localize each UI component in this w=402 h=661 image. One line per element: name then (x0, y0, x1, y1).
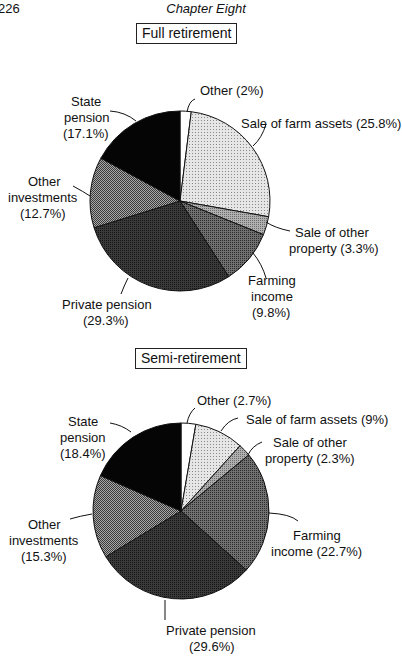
label-full-other-investments-2: investments (8, 190, 78, 205)
label-semi-other: Other (2.7%) (197, 393, 271, 408)
label-full-other: Other (2%) (200, 83, 264, 98)
label-semi-other-property-2: property (2.3%) (265, 451, 355, 466)
label-full-farming-income-2: income (251, 289, 293, 304)
label-full-state-pension-1: State (71, 94, 101, 109)
label-semi-private-pension-1: Private pension (166, 623, 256, 638)
label-full-private-pension-2: (29.3%) (83, 313, 129, 328)
label-semi-other-property-1: Sale of other (273, 435, 347, 450)
label-full-private-pension-1: Private pension (62, 297, 152, 312)
label-semi-state-pension-2: pension (60, 430, 106, 445)
label-semi-farming-income-1: Farming (293, 528, 341, 543)
label-full-other-property-2: property (3.3%) (289, 241, 379, 256)
label-full-farming-income-1: Farming (248, 273, 296, 288)
label-semi-farm-assets: Sale of farm assets (9%) (246, 412, 388, 427)
label-semi-other-investments-1: Other (28, 517, 61, 532)
label-full-farming-income-3: (9.8%) (252, 305, 290, 320)
pie-full-retirement (90, 111, 270, 291)
pie-semi-retirement (93, 423, 269, 599)
label-full-other-property-1: Sale of other (295, 225, 369, 240)
label-full-state-pension-3: (17.1%) (63, 126, 109, 141)
label-semi-other-investments-2: investments (9, 533, 79, 548)
label-semi-private-pension-2: (29.6%) (189, 639, 235, 654)
label-full-farm-assets: Sale of farm assets (25.8%) (241, 116, 401, 131)
label-full-other-investments-1: Other (28, 174, 61, 189)
pie-charts: Other (2%) Sale of farm assets (25.8%) S… (0, 0, 402, 661)
label-semi-farming-income-2: income (22.7%) (271, 544, 362, 559)
label-full-other-investments-3: (12.7%) (20, 206, 66, 221)
label-semi-other-investments-3: (15.3%) (21, 549, 67, 564)
label-full-state-pension-2: pension (64, 110, 110, 125)
label-semi-state-pension-3: (18.4%) (60, 446, 106, 461)
label-semi-state-pension-1: State (68, 414, 98, 429)
